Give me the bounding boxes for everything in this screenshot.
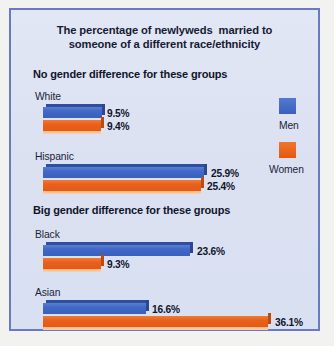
section-heading-no-gender-difference: No gender difference for these groups [33, 68, 227, 80]
bar-asian-women [43, 316, 268, 327]
bar-black-men [43, 245, 190, 256]
bar-side-edge [101, 255, 104, 266]
bar-face [43, 107, 102, 118]
value-label-asian-women: 36.1% [275, 317, 303, 328]
bar-under-shadow [43, 327, 268, 330]
bar-face [43, 303, 146, 314]
category-label-black: Black [35, 229, 60, 240]
legend-label-women: Women [269, 164, 304, 175]
section-heading-big-gender-difference: Big gender difference for these groups [33, 204, 230, 216]
chart-canvas: The percentage of newlyweds married to s… [11, 10, 318, 329]
bar-side-edge [268, 313, 271, 324]
bar-face [43, 167, 204, 178]
bar-side-edge [101, 117, 104, 128]
bar-under-shadow [43, 131, 101, 134]
chart-frame: The percentage of newlyweds married to s… [9, 8, 320, 331]
bar-side-edge [190, 242, 193, 253]
legend-swatch-men [279, 98, 296, 114]
value-label-white-women: 9.4% [107, 121, 129, 132]
value-label-black-men: 23.6% [197, 246, 225, 257]
bar-side-edge [146, 300, 149, 311]
bar-hispanic-men [43, 167, 204, 178]
value-label-hispanic-men: 25.9% [211, 168, 239, 179]
legend-swatch-women [279, 142, 296, 158]
value-label-black-women: 9.3% [107, 259, 129, 270]
chart-title: The percentage of newlyweds married to s… [23, 23, 306, 51]
legend-label-men: Men [279, 120, 299, 131]
bar-side-edge [102, 104, 105, 115]
bar-face [43, 316, 268, 327]
bar-face [43, 245, 190, 256]
category-label-hispanic: Hispanic [35, 151, 74, 162]
bar-face [43, 120, 101, 131]
bar-black-women [43, 258, 101, 269]
bar-side-edge [204, 164, 207, 175]
bar-white-men [43, 107, 102, 118]
bar-under-shadow [43, 269, 101, 272]
category-label-white: White [35, 91, 61, 102]
bar-white-women [43, 120, 101, 131]
bar-asian-men [43, 303, 146, 314]
value-label-white-men: 9.5% [107, 108, 129, 119]
bar-face [43, 258, 101, 269]
value-label-asian-men: 16.6% [152, 304, 180, 315]
category-label-asian: Asian [35, 287, 60, 298]
value-label-hispanic-women: 25.4% [207, 181, 235, 192]
bar-face [43, 180, 201, 191]
bar-hispanic-women [43, 180, 201, 191]
bar-side-edge [201, 177, 204, 188]
bar-under-shadow [43, 191, 201, 194]
